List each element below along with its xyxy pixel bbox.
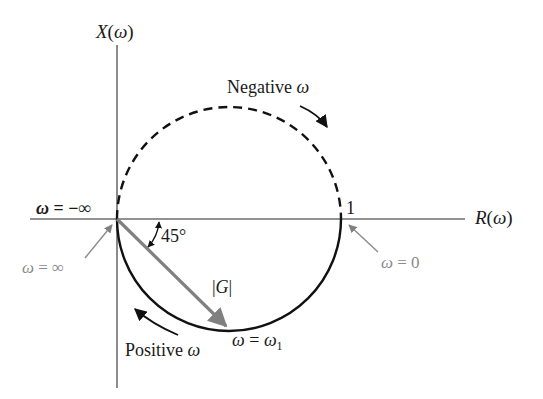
omega-neg-inf-label: ω = −∞ xyxy=(36,198,91,218)
negative-omega-label: Negative ω xyxy=(227,77,309,97)
unit-tick-label: 1 xyxy=(346,198,355,218)
omega-infinity-pointer xyxy=(85,225,112,258)
horizontal-axis-label: R(ω) xyxy=(474,207,513,229)
negative-omega-curve xyxy=(117,107,341,219)
positive-direction-arrow xyxy=(135,309,178,335)
omega-pos-inf-label: ω = ∞ xyxy=(22,258,64,277)
magnitude-label: |G| xyxy=(212,277,232,297)
angle-label: 45° xyxy=(161,226,186,246)
omega-zero-label: ω = 0 xyxy=(381,253,420,272)
positive-omega-curve xyxy=(117,219,341,331)
polar-plot: X(ω) R(ω) 1 Negative ω Positive ω ω = −∞… xyxy=(0,0,543,399)
omega-one-label: ω = ω1 xyxy=(232,330,283,353)
omega-zero-pointer xyxy=(349,225,378,252)
vertical-axis-label: X(ω) xyxy=(95,21,134,43)
positive-omega-label: Positive ω xyxy=(125,340,200,360)
angle-arc xyxy=(148,222,159,247)
negative-direction-arrow xyxy=(300,106,327,127)
